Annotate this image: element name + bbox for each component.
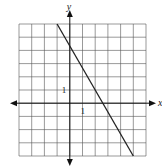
x-axis-label: x bbox=[157, 97, 162, 108]
coordinate-plane: xy11 bbox=[0, 0, 162, 168]
arrow-left-icon bbox=[10, 100, 17, 106]
arrow-right-icon bbox=[149, 100, 156, 106]
y-axis-label: y bbox=[66, 1, 72, 12]
arrow-down-icon bbox=[67, 159, 73, 166]
x-tick-label: 1 bbox=[81, 106, 86, 116]
y-tick-label: 1 bbox=[62, 85, 67, 95]
